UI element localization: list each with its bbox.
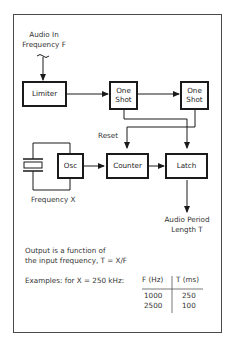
reset-label: Reset xyxy=(98,131,118,141)
osc-block: Osc xyxy=(57,153,84,179)
table-cell: 2500 xyxy=(144,301,162,310)
table-header-t: T (ms) xyxy=(176,275,199,284)
one-shot-block-2: One Shot xyxy=(180,81,209,110)
output-label-line1: Audio Period xyxy=(158,215,216,225)
output-label-line2: Length T xyxy=(158,225,216,235)
table-cell: 1000 xyxy=(144,291,162,300)
note-line-1: Output is a function of xyxy=(25,246,106,256)
one-shot-block-1: One Shot xyxy=(109,81,138,110)
latch-block: Latch xyxy=(165,153,208,179)
input-frequency-label: Frequency F xyxy=(18,40,70,50)
limiter-block: Limiter xyxy=(22,81,67,107)
counter-block: Counter xyxy=(106,153,149,179)
table-header-f: F (Hz) xyxy=(142,275,163,284)
audio-in-label: Audio In xyxy=(25,30,63,40)
note-line-2: the input frequency, T = X/F xyxy=(25,256,127,266)
table-cell: 250 xyxy=(182,291,196,300)
crystal-oscillator-icon xyxy=(23,159,43,174)
table-cell: 100 xyxy=(182,301,196,310)
crystal-frequency-label: Frequency X xyxy=(31,195,75,205)
examples-label: Examples: for X = 250 kHz: xyxy=(25,276,124,286)
